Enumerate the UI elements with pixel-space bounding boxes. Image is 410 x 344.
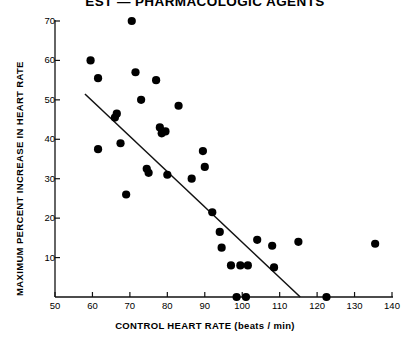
x-tick-label: 90: [190, 300, 220, 311]
data-point: [227, 261, 235, 269]
data-point: [174, 102, 182, 110]
data-point: [270, 263, 278, 271]
data-point: [122, 190, 130, 198]
y-tick-label: 60: [29, 54, 58, 65]
data-point: [236, 261, 244, 269]
y-tick-label: 20: [29, 212, 58, 223]
data-point: [94, 145, 102, 153]
x-tick-label: 50: [40, 300, 70, 311]
x-tick-label: 120: [302, 300, 332, 311]
data-point: [244, 261, 252, 269]
data-point: [131, 68, 139, 76]
data-point: [163, 171, 171, 179]
data-point: [128, 17, 136, 25]
data-point: [268, 242, 276, 250]
data-points: [86, 17, 379, 301]
axes: [55, 20, 393, 297]
data-point: [201, 163, 209, 171]
data-point: [208, 208, 216, 216]
data-point: [199, 147, 207, 155]
data-point: [253, 236, 261, 244]
y-tick-label: 30: [29, 173, 58, 184]
x-tick-label: 60: [77, 300, 107, 311]
chart-figure: EST — PHARMACOLOGIC AGENTS CONTROL HEART…: [0, 0, 410, 344]
x-tick-label: 130: [340, 300, 370, 311]
x-tick-label: 80: [152, 300, 182, 311]
x-axis-ticks: [55, 292, 392, 297]
x-tick-label: 140: [377, 300, 407, 311]
data-point: [188, 175, 196, 183]
y-tick-label: 40: [29, 133, 58, 144]
regression-line-segment: [85, 94, 300, 297]
data-point: [152, 76, 160, 84]
data-point: [94, 74, 102, 82]
y-tick-label: 70: [29, 15, 58, 26]
x-tick-label: 100: [227, 300, 257, 311]
scatter-plot-canvas: [0, 0, 410, 344]
data-point: [161, 127, 169, 135]
x-tick-label: 70: [115, 300, 145, 311]
data-point: [86, 56, 94, 64]
data-point: [145, 169, 153, 177]
regression-line: [85, 94, 300, 297]
data-point: [216, 228, 224, 236]
y-axis-title: MAXIMUM PERCENT INCREASE IN HEART RATE: [14, 61, 25, 296]
data-point: [137, 96, 145, 104]
y-tick-label: 50: [29, 94, 58, 105]
data-point: [371, 240, 379, 248]
data-point: [294, 238, 302, 246]
data-point: [113, 110, 121, 118]
data-point: [218, 244, 226, 252]
x-axis-title: CONTROL HEART RATE (beats / min): [0, 320, 410, 331]
y-tick-label: 10: [29, 252, 58, 263]
data-point: [116, 139, 124, 147]
x-tick-label: 110: [265, 300, 295, 311]
